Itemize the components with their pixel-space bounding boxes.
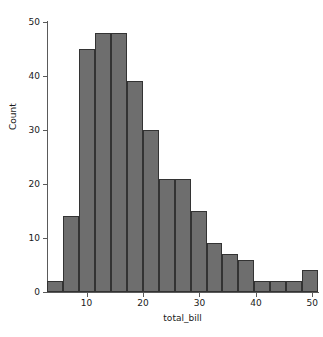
x-tick-mark [256,293,257,297]
histogram-bar [238,260,254,292]
y-tick-mark [43,292,47,293]
y-tick-label: 40 [29,72,40,81]
x-tick-label: 40 [246,299,266,308]
histogram-bars [47,22,318,292]
histogram-bar [47,281,63,292]
histogram-bar [79,49,95,292]
y-tick-label: 0 [34,288,40,297]
x-tick-mark [143,293,144,297]
y-axis-label: Count [8,103,18,130]
x-tick-mark [199,293,200,297]
histogram-bar [127,81,143,292]
histogram-bar [207,243,223,292]
y-tick-label: 30 [29,126,40,135]
histogram-bar [159,179,175,292]
histogram-bar [302,270,318,292]
x-tick-mark [312,293,313,297]
plot-area [47,22,318,292]
x-axis-label: total_bill [47,313,318,323]
x-tick-label: 50 [302,299,322,308]
histogram-bar [270,281,286,292]
histogram-bar [191,211,207,292]
histogram-bar [143,130,159,292]
y-tick-label: 50 [29,18,40,27]
x-tick-mark [87,293,88,297]
histogram-bar [63,216,79,292]
x-tick-label: 20 [133,299,153,308]
histogram-figure: 01020304050 1020304050 Count total_bill [0,0,323,337]
x-tick-label: 10 [77,299,97,308]
histogram-bar [286,281,302,292]
histogram-bar [111,33,127,292]
histogram-bar [175,179,191,292]
histogram-bar [95,33,111,292]
histogram-bar [254,281,270,292]
histogram-bar [222,254,238,292]
x-tick-label: 30 [189,299,209,308]
y-tick-label: 10 [29,234,40,243]
y-tick-label: 20 [29,180,40,189]
x-axis-spine [47,292,319,293]
